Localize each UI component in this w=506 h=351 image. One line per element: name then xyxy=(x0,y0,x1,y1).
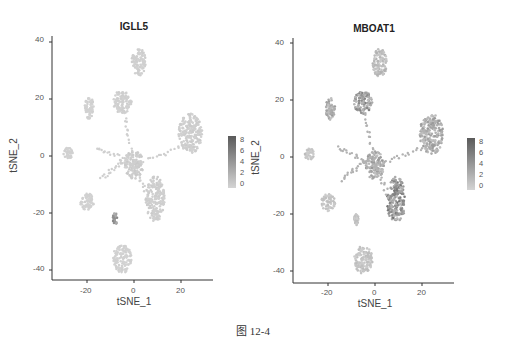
figure-caption: 图 12-4 xyxy=(0,322,506,338)
x-axis-label: tSNE_1 xyxy=(335,298,415,309)
colorbar xyxy=(467,138,475,190)
colorbar-tick: 4 xyxy=(479,159,483,168)
colorbar-tick: 8 xyxy=(479,137,483,146)
x-tick: -20 xyxy=(321,288,333,297)
panel-mboat1: MBOAT1 tSNE_2 40 20 0 -20 -40 -20 0 20 t… xyxy=(0,0,506,310)
x-tick: 0 xyxy=(372,288,376,297)
colorbar-tick: 0 xyxy=(479,181,483,190)
y-tick: -20 xyxy=(273,209,285,218)
y-tick: 20 xyxy=(275,95,284,104)
colorbar-tick: 2 xyxy=(479,170,483,179)
y-tick: 0 xyxy=(280,152,284,161)
y-axis-label: tSNE_2 xyxy=(250,140,261,174)
y-tick: -40 xyxy=(273,266,285,275)
y-tick: 40 xyxy=(275,38,284,47)
x-tick: 20 xyxy=(417,288,426,297)
colorbar-tick: 6 xyxy=(479,148,483,157)
